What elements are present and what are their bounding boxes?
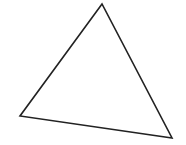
triangle-diagram (0, 0, 186, 145)
triangle-shape (20, 4, 172, 138)
diagram-canvas (0, 0, 186, 145)
